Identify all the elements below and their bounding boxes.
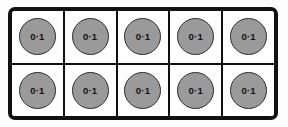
- decimal-counter-disc[interactable]: 0·1: [72, 18, 109, 55]
- counter-value-label: 0·1: [189, 32, 203, 42]
- decimal-counter-disc[interactable]: 0·1: [177, 18, 214, 55]
- ten-frame-row-bottom: 0·1 0·1 0·1 0·1 0·1: [12, 65, 274, 117]
- decimal-counter-disc[interactable]: 0·1: [230, 72, 267, 109]
- counter-value-label: 0·1: [136, 32, 150, 42]
- decimal-counter-disc[interactable]: 0·1: [19, 72, 56, 109]
- ten-frame-cell[interactable]: 0·1: [65, 65, 118, 117]
- counter-value-label: 0·1: [189, 86, 203, 96]
- decimal-counter-disc[interactable]: 0·1: [72, 72, 109, 109]
- counter-value-label: 0·1: [83, 32, 97, 42]
- ten-frame-cell[interactable]: 0·1: [12, 11, 65, 63]
- decimal-counter-disc[interactable]: 0·1: [124, 72, 161, 109]
- ten-frame-cell[interactable]: 0·1: [223, 11, 274, 63]
- ten-frame-cell[interactable]: 0·1: [170, 11, 223, 63]
- decimal-counter-disc[interactable]: 0·1: [177, 72, 214, 109]
- counter-value-label: 0·1: [241, 86, 255, 96]
- counter-value-label: 0·1: [30, 86, 44, 96]
- decimal-counter-disc[interactable]: 0·1: [230, 18, 267, 55]
- counter-value-label: 0·1: [241, 32, 255, 42]
- counter-value-label: 0·1: [30, 32, 44, 42]
- ten-frame-figure: 0·1 0·1 0·1 0·1 0·1: [0, 0, 288, 127]
- ten-frame-row-top: 0·1 0·1 0·1 0·1 0·1: [12, 11, 274, 65]
- ten-frame-cell[interactable]: 0·1: [118, 11, 171, 63]
- ten-frame-grid: 0·1 0·1 0·1 0·1 0·1: [8, 7, 278, 120]
- ten-frame-cell[interactable]: 0·1: [223, 65, 274, 117]
- decimal-counter-disc[interactable]: 0·1: [19, 18, 56, 55]
- decimal-counter-disc[interactable]: 0·1: [124, 18, 161, 55]
- ten-frame-cell[interactable]: 0·1: [65, 11, 118, 63]
- ten-frame-cell[interactable]: 0·1: [118, 65, 171, 117]
- ten-frame-cell[interactable]: 0·1: [170, 65, 223, 117]
- ten-frame-cell[interactable]: 0·1: [12, 65, 65, 117]
- counter-value-label: 0·1: [136, 86, 150, 96]
- counter-value-label: 0·1: [83, 86, 97, 96]
